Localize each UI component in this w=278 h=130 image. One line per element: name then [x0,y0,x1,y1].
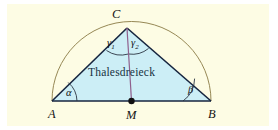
angle-label-gamma2: γ2 [131,38,139,51]
angle-label-alpha: α [66,88,72,99]
thales-diagram-figure: C A B M α β γ1 γ2 Thalesdreieck [0,0,278,130]
gamma1-subscript: 1 [111,43,115,51]
vertex-label-b: B [208,108,216,121]
midpoint-dot [128,98,134,104]
vertex-label-a: A [48,108,56,121]
angle-label-beta: β [188,85,193,96]
vertex-label-c: C [112,8,120,21]
midpoint-label-m: M [126,109,136,122]
diagram-vector-layer [0,0,278,130]
angle-label-gamma1: γ1 [107,38,115,51]
gamma2-subscript: 2 [135,43,139,51]
interior-caption-thalesdreieck: Thalesdreieck [88,66,155,78]
